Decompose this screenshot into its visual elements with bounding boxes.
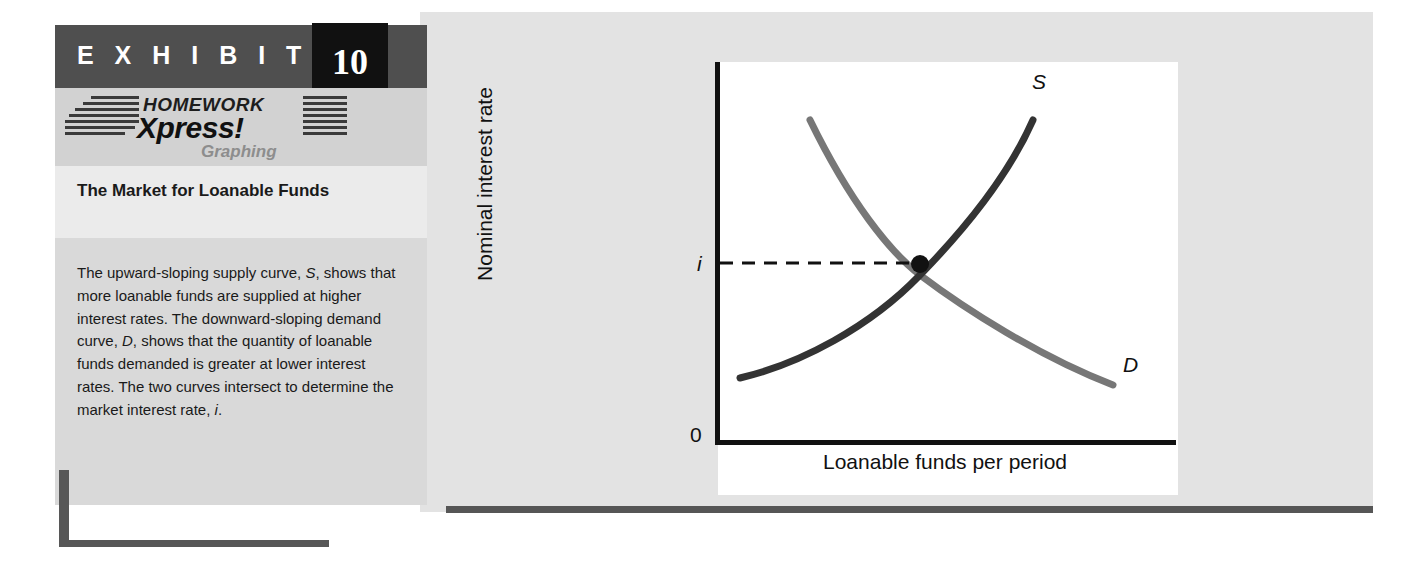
exhibit-page: E X H I B I T 10 HOMEWORK Xpress! Graphi… (0, 0, 1423, 563)
accent-bar-vertical (59, 470, 69, 547)
chart-curves (420, 12, 1373, 512)
accent-bar-horizontal (59, 540, 329, 547)
exhibit-header-label: E X H I B I T (77, 41, 308, 70)
origin-label: 0 (690, 423, 702, 447)
demand-curve-path (810, 120, 1113, 385)
supply-curve-label: S (1032, 70, 1046, 94)
equilibrium-point-dot (911, 255, 929, 273)
supply-curve-path (740, 120, 1033, 378)
exhibit-title-band: The Market for Loanable Funds (55, 166, 427, 238)
x-axis-label: Loanable funds per period (710, 450, 1180, 474)
equilibrium-rate-label: i (697, 252, 702, 276)
logo-text-graphing: Graphing (201, 142, 277, 162)
logo-text-xpress: Xpress! (137, 111, 244, 145)
demand-curve-label: D (1123, 353, 1138, 377)
loanable-funds-chart: Nominal interest rate Loanable funds per… (420, 12, 1373, 512)
exhibit-title: The Market for Loanable Funds (77, 180, 367, 203)
speed-lines-right-icon (303, 96, 349, 142)
y-axis-label: Nominal interest rate (473, 34, 497, 334)
homework-xpress-logo: HOMEWORK Xpress! Graphing (65, 92, 355, 166)
exhibit-caption: The upward-sloping supply curve, S, show… (77, 262, 397, 422)
exhibit-card: E X H I B I T 10 HOMEWORK Xpress! Graphi… (55, 25, 427, 505)
homework-xpress-logo-band: HOMEWORK Xpress! Graphing (55, 88, 427, 166)
speed-lines-left-icon (65, 96, 139, 142)
exhibit-caption-band: The upward-sloping supply curve, S, show… (55, 238, 427, 505)
